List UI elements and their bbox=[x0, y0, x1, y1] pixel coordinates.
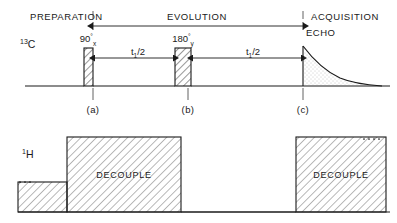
channel-label-carbon: 13C bbox=[20, 38, 36, 50]
pulse-180-label: 180°y bbox=[172, 33, 194, 48]
decouple-label-2: DECOUPLE bbox=[313, 170, 369, 180]
header-acquisition: ACQUISITION bbox=[311, 11, 379, 22]
proton-pedestal-left bbox=[18, 182, 67, 212]
t1-half-second-label: t1/2 bbox=[246, 46, 260, 59]
header-evolution: EVOLUTION bbox=[167, 11, 227, 22]
pulse-90-label: 90°x bbox=[80, 33, 97, 47]
pulse-sequence-figure: PREPARATION EVOLUTION ACQUISITION 13C 90… bbox=[0, 0, 397, 223]
marker-label-a: (a) bbox=[87, 104, 100, 115]
figure-canvas: PREPARATION EVOLUTION ACQUISITION 13C 90… bbox=[0, 0, 397, 223]
channel-label-proton: 1H bbox=[22, 148, 34, 160]
marker-label-b: (b) bbox=[182, 104, 195, 115]
header-preparation: PREPARATION bbox=[30, 11, 103, 22]
echo-label: ECHO bbox=[306, 27, 335, 38]
t1-half-first-label: t1/2 bbox=[131, 46, 145, 59]
pulse-180-block bbox=[175, 48, 191, 86]
fid-decay-fill bbox=[303, 46, 382, 86]
decouple-label-1: DECOUPLE bbox=[96, 170, 152, 180]
marker-label-c: (c) bbox=[297, 104, 309, 115]
pulse-90-block bbox=[84, 48, 93, 86]
